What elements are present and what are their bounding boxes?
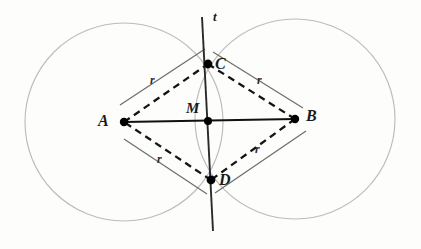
- measure-line-upper-left: [120, 49, 205, 105]
- measure-line-lower-left: [124, 139, 207, 194]
- point-dot-b: [291, 115, 299, 123]
- point-label-c: C: [215, 56, 226, 72]
- point-label-d: D: [219, 172, 231, 188]
- radius-label-upper-right: r: [257, 74, 262, 86]
- radius-label-lower-right: r: [255, 143, 260, 155]
- radius-label-upper-left: r: [150, 74, 155, 86]
- line-label-t: t: [213, 10, 217, 23]
- edge-d-to-a: [124, 122, 211, 180]
- point-label-m: M: [186, 101, 199, 116]
- point-dot-c: [204, 60, 213, 69]
- point-dot-m: [204, 117, 212, 125]
- point-label-b: B: [306, 108, 317, 124]
- geometry-figure: A B C D M t r r r r: [0, 0, 421, 249]
- point-dot-a: [120, 118, 128, 126]
- point-label-a: A: [98, 113, 109, 129]
- edge-c-to-b: [208, 64, 295, 119]
- point-dot-d: [207, 176, 216, 185]
- radius-label-lower-left: r: [157, 153, 162, 165]
- figure-canvas: [0, 0, 421, 249]
